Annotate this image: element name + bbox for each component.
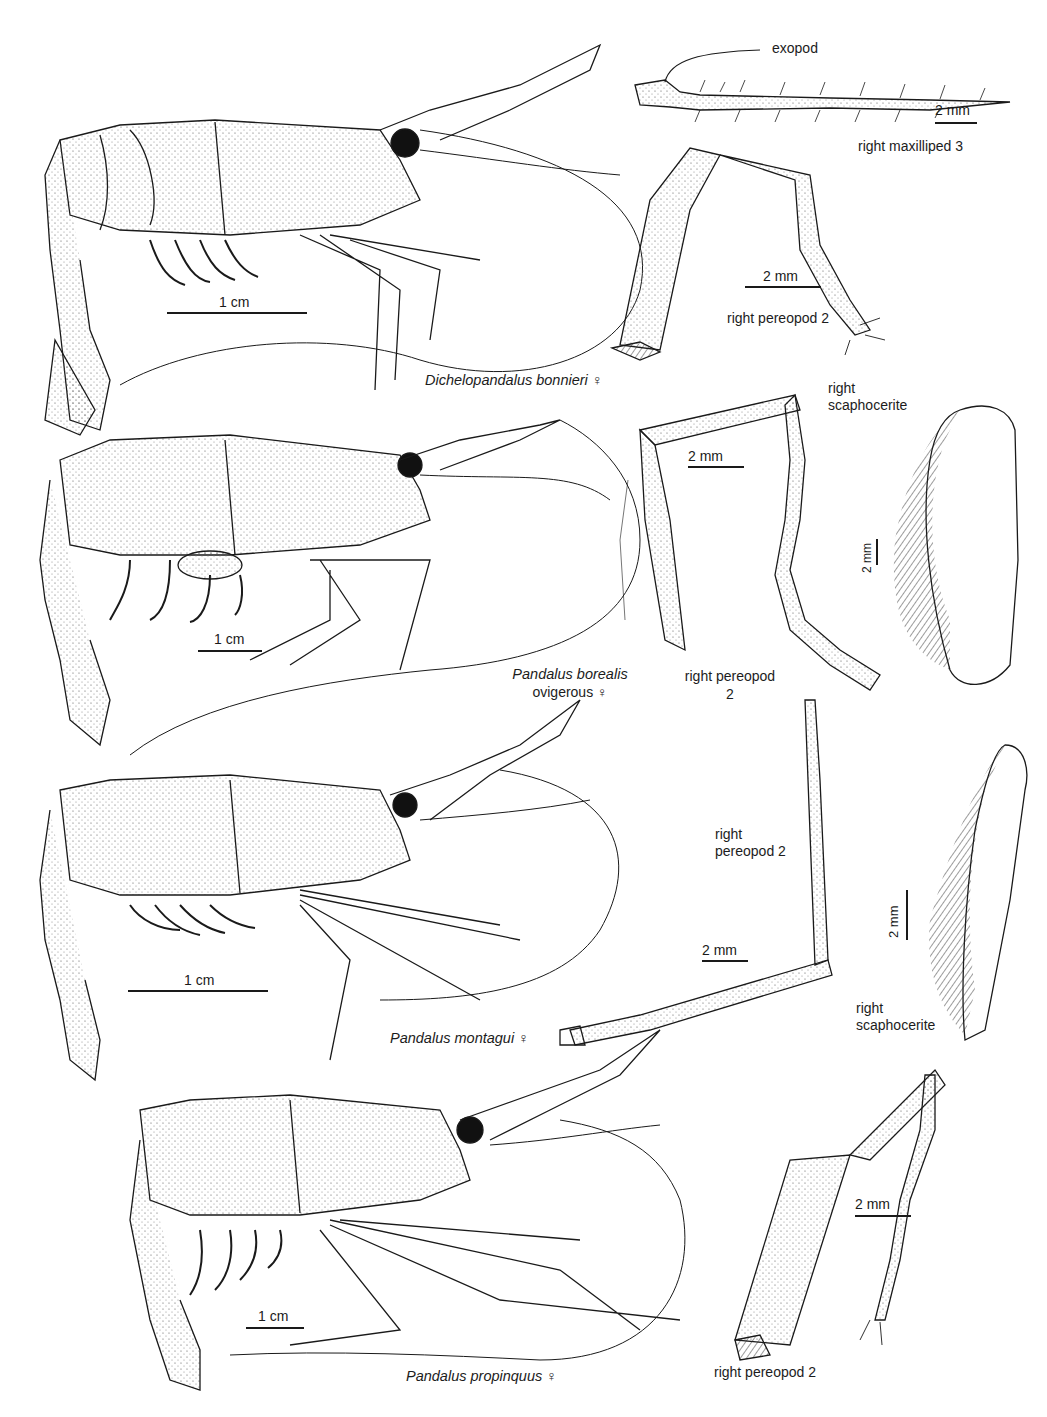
shrimp-pandalus-propinquus <box>130 1030 685 1390</box>
maxilliped-label: right maxilliped 3 <box>858 138 963 154</box>
species-name-pandalus-montagui: Pandalus montagui ♀ <box>390 1030 529 1046</box>
scale-text: 2 mm <box>688 448 723 464</box>
species-text: Pandalus montagui <box>390 1030 514 1046</box>
shrimp-pandalus-borealis <box>40 420 640 755</box>
scale-text: 2 mm <box>860 543 874 573</box>
scale-text: 1 cm <box>184 972 214 988</box>
note-text: ovigerous <box>532 684 593 700</box>
scale-text: 2 mm <box>763 268 798 284</box>
female-symbol-icon: ♀ <box>597 684 608 700</box>
pereopod-detail-1 <box>612 148 885 360</box>
species-name-pandalus-borealis: Pandalus borealis <box>470 666 670 682</box>
scale-line <box>745 286 821 288</box>
species-text: Pandalus borealis <box>512 666 627 682</box>
scaphocerite-1-label-line2: scaphocerite <box>828 397 907 413</box>
pereopod-detail-3 <box>560 700 832 1045</box>
pereopod-2-label-line2: 2 <box>660 686 800 702</box>
female-symbol-icon: ♀ <box>592 372 603 388</box>
scaphocerite-2-label-line2: scaphocerite <box>856 1017 935 1033</box>
scale-text: 1 cm <box>219 294 249 310</box>
scale-line <box>688 466 744 468</box>
pereopod-detail-2 <box>620 395 880 690</box>
scale-text: 2 mm <box>935 102 970 118</box>
species-name-pandalus-propinquus: Pandalus propinquus ♀ <box>406 1368 557 1384</box>
scale-text: 1 cm <box>214 631 244 647</box>
scale-line <box>855 1215 911 1217</box>
scale-text: 2 mm <box>702 942 737 958</box>
pereopod-1-label: right pereopod 2 <box>727 310 829 326</box>
scale-line <box>935 122 977 124</box>
illustration-plate: exopod right maxilliped 3 2 mm 2 mm righ… <box>0 0 1047 1417</box>
pereopod-3-label-line1: right <box>715 826 742 842</box>
scaphocerite-1-label-line1: right <box>828 380 855 396</box>
species-text: Pandalus propinquus <box>406 1368 542 1384</box>
pereopod-4-label: right pereopod 2 <box>714 1364 816 1380</box>
scale-line <box>876 539 878 565</box>
pereopod-detail-4 <box>735 1070 945 1360</box>
scaphocerite-detail-1 <box>894 406 1018 684</box>
pereopod-2-label-line1: right pereopod <box>660 668 800 684</box>
scale-line <box>906 890 908 940</box>
scale-text: 2 mm <box>855 1196 890 1212</box>
female-symbol-icon: ♀ <box>518 1030 529 1046</box>
pereopod-3-label-line2: pereopod 2 <box>715 843 786 859</box>
scaphocerite-detail-2 <box>929 745 1027 1040</box>
scale-line <box>702 960 748 962</box>
exopod-label: exopod <box>772 40 818 56</box>
female-symbol-icon: ♀ <box>546 1368 557 1384</box>
species-text: Dichelopandalus bonnieri <box>425 372 588 388</box>
scaphocerite-2-label-line1: right <box>856 1000 883 1016</box>
species-note-ovigerous: ovigerous ♀ <box>470 684 670 700</box>
species-name-dichelopandalus: Dichelopandalus bonnieri ♀ <box>425 372 603 388</box>
scale-text: 1 cm <box>258 1308 288 1324</box>
scale-text: 2 mm <box>886 906 901 939</box>
shrimp-pandalus-montagui <box>40 700 619 1080</box>
